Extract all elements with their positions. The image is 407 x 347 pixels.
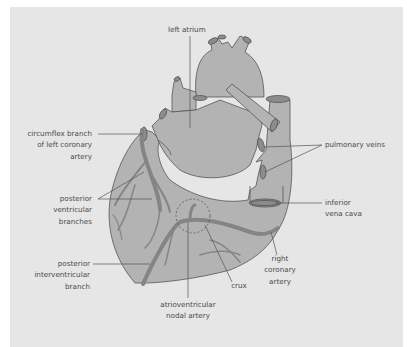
label-right-coronary-artery: right coronary artery [258, 253, 302, 287]
label-text: inferior [325, 197, 362, 208]
label-text: circumflex branch [18, 128, 92, 139]
label-circumflex: circumflex branch of left coronary arter… [18, 128, 92, 162]
label-text: coronary [258, 264, 302, 275]
label-text: posterior [18, 258, 90, 269]
label-text: left atrium [168, 25, 206, 34]
vessel-opening-right-upper [266, 96, 290, 103]
heart-diagram [0, 0, 407, 347]
vessel-opening-pv-upper [256, 137, 265, 152]
label-text: artery [258, 276, 302, 287]
label-text: crux [231, 281, 247, 290]
label-text: atrioventricular [148, 299, 228, 310]
label-text: posterior [18, 193, 92, 204]
label-text: interventricular [18, 269, 90, 280]
label-crux: crux [226, 280, 252, 291]
label-text: of left coronary [18, 139, 92, 150]
label-pulmonary-veins: pulmonary veins [325, 139, 385, 150]
label-inferior-vena-cava: inferior vena cava [325, 197, 362, 220]
vessel-opening-svc [193, 96, 207, 101]
label-posterior-interventricular: posterior interventricular branch [18, 258, 90, 292]
upper-left-atrium [152, 100, 262, 178]
label-posterior-ventricular: posterior ventricular branches [18, 193, 92, 227]
label-text: artery [18, 151, 92, 162]
label-text: vena cava [325, 208, 362, 219]
label-text: nodal artery [148, 310, 228, 321]
label-text: ventricular [18, 204, 92, 215]
label-text: branches [18, 216, 92, 227]
label-text: pulmonary veins [325, 140, 385, 149]
label-left-atrium: left atrium [168, 24, 206, 35]
vessel-opening-aorta-2 [218, 35, 226, 39]
label-text: branch [18, 281, 90, 292]
left-vessel-stub [172, 78, 196, 112]
label-text: right [258, 253, 302, 264]
label-av-nodal-artery: atrioventricular nodal artery [148, 299, 228, 322]
